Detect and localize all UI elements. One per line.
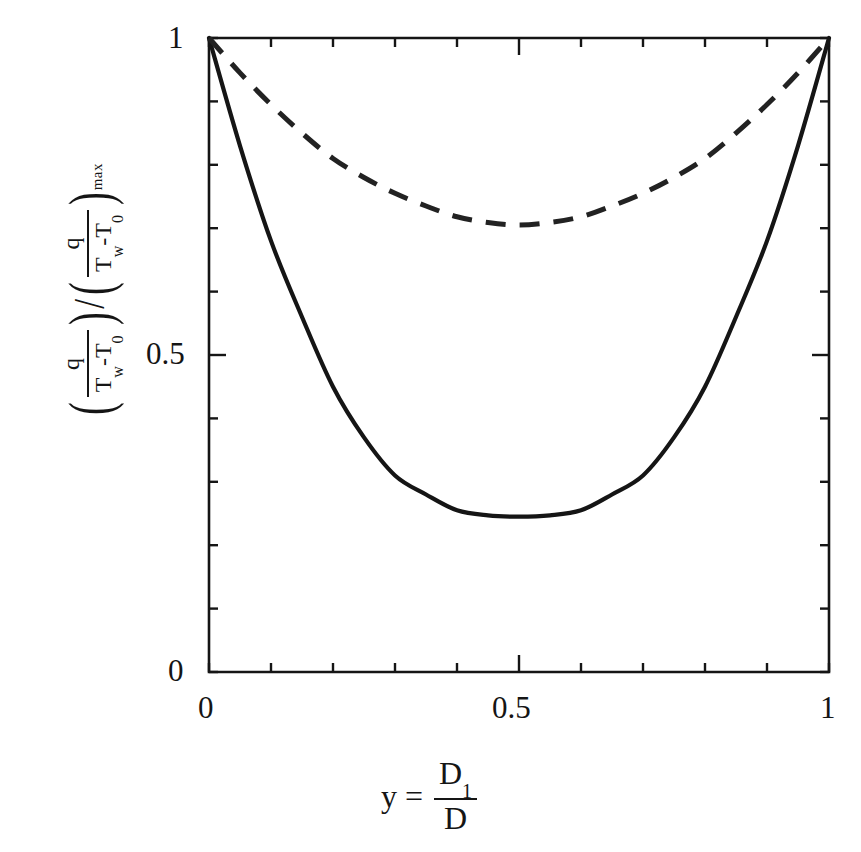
dashed-curve: [209, 38, 829, 225]
plot-area: [0, 0, 861, 852]
figure-container: 1 0.5 0 0 0.5 1 ( q Tw-T0 ) / ( q Tw-T0 …: [0, 0, 861, 852]
solid-curve: [209, 38, 829, 517]
